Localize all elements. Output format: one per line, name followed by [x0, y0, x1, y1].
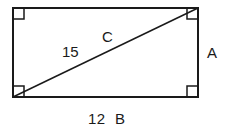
right-angle-marker-top-right — [187, 8, 198, 19]
geometry-diagram: C 15 A 12 B — [0, 0, 237, 134]
bottom-side-label: 12 B — [88, 111, 126, 126]
right-angle-marker-bottom-right — [187, 86, 198, 97]
right-angle-marker-bottom-left — [13, 86, 24, 97]
diagonal-name-label: C — [102, 29, 113, 44]
diagonal-line — [13, 8, 198, 97]
diagonal-length-label: 15 — [62, 44, 79, 59]
right-side-label: A — [207, 45, 217, 60]
right-angle-marker-top-left — [13, 8, 24, 19]
